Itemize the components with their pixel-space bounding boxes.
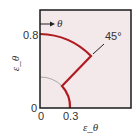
x-tick-0: 0 bbox=[38, 111, 44, 122]
plot-area bbox=[40, 10, 131, 108]
x-axis-label: ε_θ bbox=[83, 122, 98, 133]
y-axis-label: ε_θ bbox=[10, 56, 21, 71]
theta-label: θ bbox=[57, 18, 62, 29]
diagram: θ 45° 0.8 0 ε_θ 0 0.3 ε_θ bbox=[0, 0, 139, 133]
y-tick-0.8: 0.8 bbox=[23, 30, 38, 41]
y-tick-0: 0 bbox=[31, 103, 37, 114]
angle-annotation: 45° bbox=[105, 31, 122, 42]
x-tick-0.3: 0.3 bbox=[63, 111, 78, 122]
